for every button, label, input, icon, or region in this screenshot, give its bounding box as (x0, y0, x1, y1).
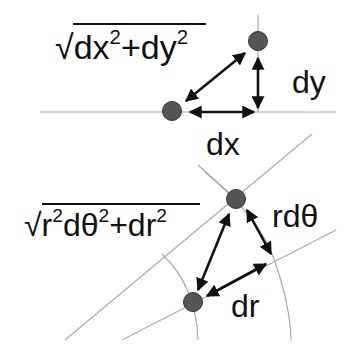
cartesian-distance-formula: √dx2+dy2 (55, 30, 188, 64)
hypotenuse-arrow (186, 53, 245, 101)
rdtheta-label: rdθ (272, 200, 318, 232)
point-origin (163, 102, 182, 121)
point-end (249, 32, 268, 51)
diagram-canvas: √dx2+dy2 dy dx √r2dθ2+dr2 rdθ dr (0, 0, 351, 356)
point-polar-origin (184, 293, 203, 312)
dr-label: dr (231, 290, 259, 322)
sqrt-symbol-polar: √ (24, 207, 42, 243)
dx-label: dx (206, 128, 240, 160)
rdtheta-arrow (247, 210, 271, 254)
sqrt-symbol: √ (55, 28, 74, 66)
polar-distance-formula: √r2dθ2+dr2 (24, 209, 167, 241)
point-polar-end (227, 190, 246, 209)
dy-label: dy (292, 66, 326, 98)
